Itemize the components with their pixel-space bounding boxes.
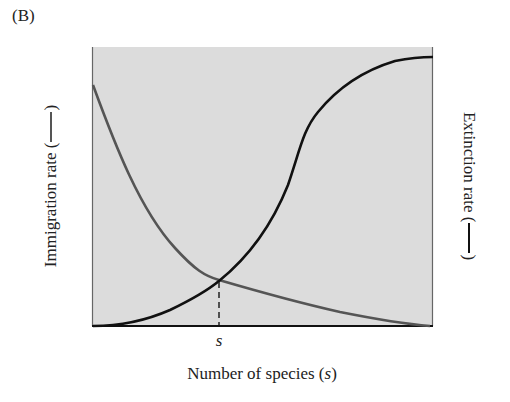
x-tick-s: s <box>216 331 223 351</box>
chart-plot-area <box>0 0 510 402</box>
y-axis-label-left-close: ) <box>41 105 60 111</box>
y-axis-label-right: Extinction rate () <box>457 66 479 306</box>
x-axis-label: Number of species (s) <box>187 364 337 384</box>
x-axis-label-prefix: Number of species ( <box>187 364 324 383</box>
x-axis-label-suffix: ) <box>331 364 337 383</box>
y-axis-label-right-close: ) <box>460 254 479 260</box>
y-axis-label-right-text: Extinction rate ( <box>460 112 479 222</box>
y-axis-label-left-text: Immigration rate ( <box>41 143 60 268</box>
extinction-line-sample-icon <box>468 223 470 253</box>
plot-background <box>92 47 433 326</box>
y-axis-label-left: Immigration rate () <box>41 66 63 306</box>
immigration-line-sample-icon <box>50 112 52 142</box>
x-axis-label-variable: s <box>325 364 332 383</box>
